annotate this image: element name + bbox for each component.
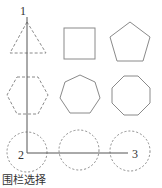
square-shape — [64, 28, 95, 59]
point-2-label: 2 — [18, 149, 24, 161]
circle-middle-shape — [59, 130, 99, 170]
heptagon-shape — [60, 75, 100, 113]
figure-caption: 围栏选择 — [2, 171, 46, 187]
pentagon-shape — [110, 22, 150, 61]
point-1-label: 1 — [20, 5, 26, 17]
circle-right-shape — [110, 131, 150, 171]
octagon-shape — [112, 76, 150, 115]
point-3-label: 3 — [132, 148, 138, 160]
triangle-shape — [10, 22, 46, 53]
